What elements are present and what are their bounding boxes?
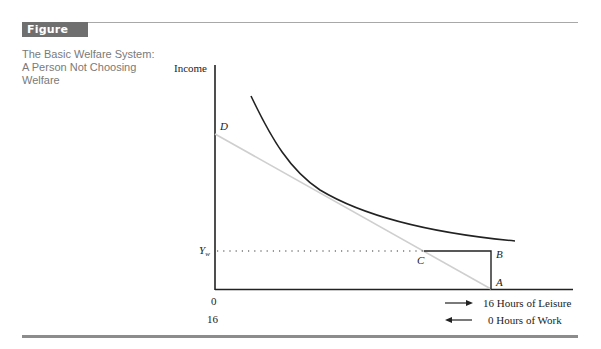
- point-label-b: B: [496, 248, 503, 260]
- arrow-left-icon: [445, 317, 472, 323]
- origin-leisure-label: 0: [211, 295, 217, 307]
- arrow-right-icon: [445, 300, 473, 306]
- bottom-rule: [22, 335, 578, 338]
- yw-label: Yw: [199, 244, 210, 258]
- point-label-c: C: [417, 254, 425, 266]
- chart: Income D C B A Yw 0 16 16 Hours of Leisu…: [0, 0, 601, 349]
- x-axis-label-work: 0 Hours of Work: [488, 314, 562, 326]
- origin-work-label: 16: [207, 313, 219, 325]
- point-label-a: A: [495, 276, 503, 288]
- x-axis-label-leisure: 16 Hours of Leisure: [483, 297, 571, 309]
- point-label-d: D: [219, 120, 228, 132]
- budget-line: [215, 134, 491, 289]
- indifference-curve: [251, 96, 515, 241]
- y-axis-label: Income: [174, 62, 207, 74]
